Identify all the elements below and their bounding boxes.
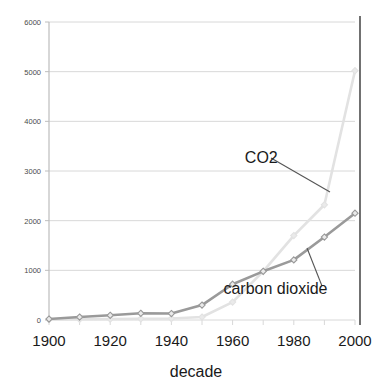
leader-line-co2 (271, 158, 330, 192)
annotation-co2: CO2 (245, 149, 278, 166)
line-chart: 0100020003000400050006000 19001920194019… (0, 0, 383, 385)
x-axis-tick-labels: 190019201940196019802000 (32, 320, 371, 349)
x-tick-label: 2000 (338, 332, 371, 349)
data-point-marker (352, 68, 358, 74)
y-tick-label: 2000 (24, 217, 41, 226)
y-tick-label: 1000 (24, 266, 41, 275)
x-tick-label: 1920 (94, 332, 127, 349)
y-tick-label: 6000 (24, 18, 41, 27)
y-tick-label: 5000 (24, 68, 41, 77)
gridlines-group (45, 22, 355, 320)
y-axis-tick-labels: 0100020003000400050006000 (24, 18, 41, 325)
x-tick-label: 1960 (216, 332, 249, 349)
y-tick-label: 0 (37, 316, 41, 325)
x-tick-label: 1980 (277, 332, 310, 349)
series-carbon-dioxide (46, 210, 358, 322)
y-tick-label: 4000 (24, 117, 41, 126)
y-tick-label: 3000 (24, 167, 41, 176)
data-point-marker (168, 310, 174, 316)
x-axis-title: decade (170, 363, 223, 380)
annotation-carbon-dioxide: carbon dioxide (223, 280, 327, 297)
x-tick-label: 1940 (155, 332, 188, 349)
annotation-leader-lines (271, 158, 330, 286)
data-point-marker (138, 310, 144, 316)
chart-container: 0100020003000400050006000 19001920194019… (0, 0, 383, 385)
x-tick-label: 1900 (32, 332, 65, 349)
